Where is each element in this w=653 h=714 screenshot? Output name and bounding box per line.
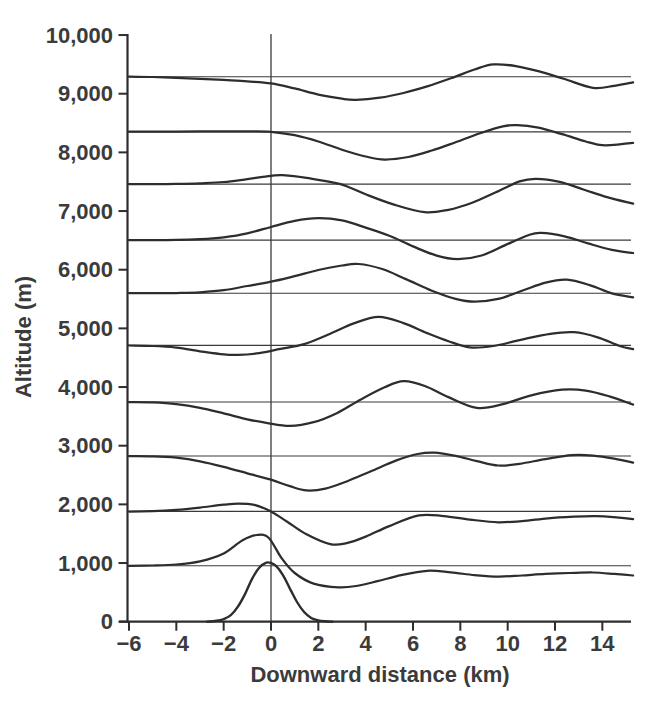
y-tick-label: 6,000 [58,257,113,282]
x-tick-label: −2 [211,631,236,656]
y-tick-label: 8,000 [58,140,113,165]
x-tick-label: 0 [265,631,277,656]
y-tick-label: 2,000 [58,492,113,517]
y-tick-label: 5,000 [58,316,113,341]
y-tick-label: 0 [101,609,113,634]
x-tick-label: −6 [116,631,141,656]
y-tick-label: 7,000 [58,199,113,224]
x-tick-label: 6 [407,631,419,656]
streamline-2825 [129,453,633,491]
mountain-wave-figure: 01,0002,0003,0004,0005,0006,0007,0008,00… [0,0,653,714]
y-tick-label: 3,000 [58,433,113,458]
wave-chart-svg: 01,0002,0003,0004,0005,0006,0007,0008,00… [0,0,653,714]
x-tick-label: 14 [590,631,615,656]
streamline-8350 [129,125,633,160]
streamline-3745 [129,381,633,426]
x-axis-title: Downward distance (km) [129,662,631,690]
x-tick-label: −4 [164,631,190,656]
streamline-5600 [129,264,633,302]
y-tick-label: 9,000 [58,81,113,106]
x-tick-label: 4 [360,631,373,656]
y-tick-label: 1,000 [58,551,113,576]
mountain-profile [207,562,332,621]
y-tick-label: 4,000 [58,375,113,400]
streamline-955 [129,535,633,588]
streamline-7460 [129,175,633,212]
streamline-9290 [129,64,633,100]
streamline-1880 [129,504,633,545]
streamline-4710 [129,317,633,355]
x-tick-label: 10 [495,631,519,656]
x-tick-label: 8 [454,631,466,656]
x-tick-label: 12 [543,631,567,656]
y-axis-title: Altitude (m) [11,227,39,447]
streamline-6505 [129,218,633,259]
x-tick-label: 2 [312,631,324,656]
y-tick-label: 10,000 [46,23,113,48]
